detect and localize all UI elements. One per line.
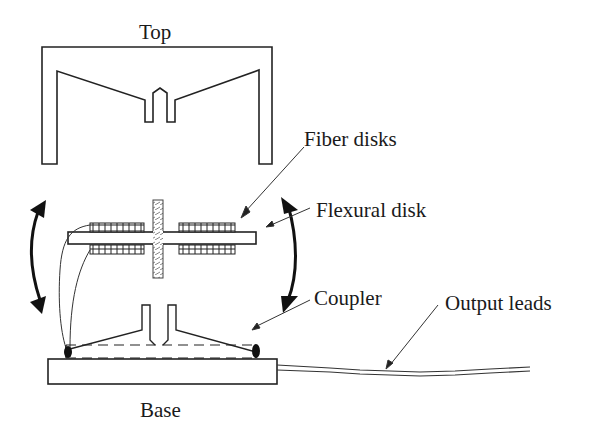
- fiber-disk-lower-left: [90, 245, 144, 254]
- fiber-disk-upper-right: [179, 223, 235, 232]
- output-leads-cable: [277, 365, 530, 376]
- base-block: [48, 359, 277, 384]
- leader-lines: [241, 147, 438, 369]
- coupler: [64, 305, 260, 358]
- label-fiber-disks: Fiber disks: [304, 129, 397, 150]
- flexural-disk-assembly: [68, 200, 256, 278]
- fiber-disk-upper-left: [90, 223, 144, 232]
- label-flexural-disk: Flexural disk: [316, 200, 426, 221]
- center-post-front: [153, 231, 163, 245]
- label-top: Top: [139, 22, 171, 43]
- label-output-leads: Output leads: [445, 293, 552, 314]
- fiber-disk-lower-right: [179, 245, 235, 254]
- top-housing: [42, 47, 272, 164]
- rotation-arrow-left: [30, 200, 46, 314]
- accelerometer-diagram: [0, 0, 598, 441]
- label-coupler: Coupler: [314, 288, 382, 309]
- label-base: Base: [140, 400, 181, 421]
